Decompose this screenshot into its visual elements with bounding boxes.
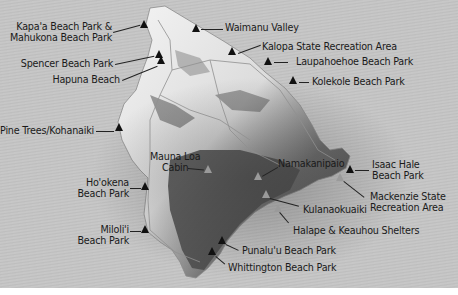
label-milolii-line2: Beach Park — [77, 236, 129, 247]
label-namakanipaio: Namakanipaio — [278, 159, 344, 170]
label-maunaloa-line1: Mauna Loa — [150, 152, 200, 163]
label-mackenzie-line1: Mackenzie State — [370, 192, 446, 203]
leader-line-pinetrees — [96, 131, 114, 132]
campsite-marker-milolii[interactable] — [141, 225, 149, 233]
campsite-marker-isaachale[interactable] — [346, 165, 354, 173]
label-milolii: Miloli'i Beach Park — [77, 225, 129, 246]
label-mackenzie-line2: Recreation Area — [370, 203, 446, 214]
label-whittington: Whittington Beach Park — [228, 263, 336, 274]
campsite-marker-waimanu[interactable] — [192, 24, 200, 32]
leader-line-laupahoehoe — [274, 62, 288, 63]
label-isaachale-line2: Beach Park — [372, 171, 424, 182]
label-pinetrees: Pine Trees/Kohanaiki — [0, 126, 94, 137]
label-kalopa: Kalopa State Recreation Area — [262, 42, 397, 53]
campsite-marker-mackenzie[interactable] — [336, 173, 344, 181]
label-milolii-line1: Miloli'i — [77, 225, 129, 236]
campsite-marker-whittington[interactable] — [208, 247, 216, 255]
campsite-marker-kulanaokuaiki[interactable] — [262, 190, 270, 198]
leader-line-hookena — [130, 188, 141, 189]
label-mahukona: Mahukona Beach Park — [10, 33, 112, 44]
campsite-marker-halape[interactable] — [274, 204, 282, 212]
leader-line-kolekole — [299, 82, 309, 83]
label-punaluu: Punalu'u Beach Park — [242, 246, 336, 257]
label-mackenzie: Mackenzie State Recreation Area — [370, 192, 446, 213]
leader-line-milolii — [130, 231, 141, 232]
label-spencer: Spencer Beach Park — [21, 59, 113, 70]
label-halape: Halape & Keauhou Shelters — [293, 226, 419, 237]
campsite-marker-hookena[interactable] — [141, 182, 149, 190]
label-isaachale: Isaac Hale Beach Park — [372, 160, 424, 181]
island-map: Kapa'a Beach Park & Mahukona Beach Park … — [0, 0, 458, 288]
label-kulanaokuaiki: Kulanaokuaiki — [303, 205, 367, 216]
leader-line-isaachale — [355, 170, 369, 171]
campsite-marker-kolekole[interactable] — [289, 76, 297, 84]
campsite-marker-laupahoehoe[interactable] — [264, 57, 272, 65]
label-maunaloa-line2: Cabin — [150, 163, 200, 174]
label-isaachale-line1: Isaac Hale — [372, 160, 424, 171]
campsite-marker-maunaloa[interactable] — [204, 165, 212, 173]
campsite-marker-kapaa[interactable] — [140, 20, 148, 28]
label-kapaa-mahukona: Kapa'a Beach Park & Mahukona Beach Park — [10, 22, 112, 43]
campsite-marker-hapuna[interactable] — [157, 56, 165, 64]
label-hookena-line2: Beach Park — [77, 189, 129, 200]
campsite-marker-namakanipaio[interactable] — [254, 172, 262, 180]
label-hookena: Ho'okena Beach Park — [77, 178, 129, 199]
campsite-marker-pinetrees[interactable] — [115, 123, 123, 131]
label-hapuna: Hapuna Beach — [52, 75, 120, 86]
label-waimanu: Waimanu Valley — [225, 23, 299, 34]
label-kapaa: Kapa'a Beach Park & — [10, 22, 112, 33]
campsite-marker-kalopa[interactable] — [228, 47, 236, 55]
bottom-margin — [0, 288, 458, 295]
leader-line-waimanu — [201, 29, 223, 30]
label-maunaloa: Mauna Loa Cabin — [150, 152, 200, 173]
campsite-marker-punaluu[interactable] — [218, 236, 226, 244]
label-kolekole: Kolekole Beach Park — [312, 77, 405, 88]
label-laupahoehoe: Laupahoehoe Beach Park — [296, 57, 413, 68]
label-hookena-line1: Ho'okena — [77, 178, 129, 189]
